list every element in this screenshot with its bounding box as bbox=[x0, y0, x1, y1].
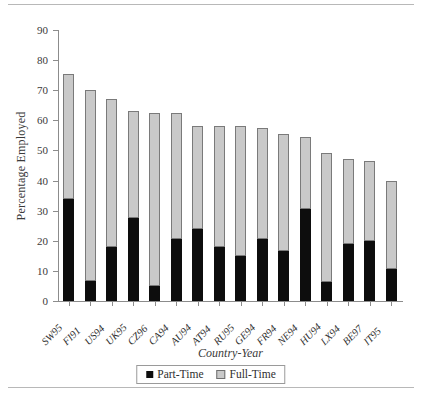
bar-segment-full-time bbox=[214, 126, 225, 246]
y-axis-tick-label: 40 bbox=[0, 175, 48, 186]
bar-segment-full-time bbox=[235, 126, 246, 255]
x-axis-category-labels: SW95FI91US94UK95CZ96CA94AU94AT94RU95GE94… bbox=[58, 304, 403, 348]
y-axis-tick-label: 90 bbox=[0, 25, 48, 36]
bar-FI91[interactable] bbox=[85, 90, 96, 301]
bar-segment-full-time bbox=[106, 99, 117, 247]
y-axis-tick-label: 70 bbox=[0, 85, 48, 96]
bar-US94[interactable] bbox=[106, 99, 117, 301]
bar-segment-part-time bbox=[235, 256, 246, 301]
bar-segment-full-time bbox=[321, 153, 332, 282]
x-axis-label-IT95: IT95 bbox=[362, 325, 384, 347]
legend-label-part-time: Part-Time bbox=[157, 368, 203, 380]
bar-segment-part-time bbox=[278, 251, 289, 301]
x-axis-label-US94: US94 bbox=[82, 323, 106, 347]
y-axis-tick-label: 60 bbox=[0, 115, 48, 126]
x-axis-label-CA94: CA94 bbox=[147, 322, 172, 347]
y-axis-title: Percentage Employed bbox=[14, 41, 29, 291]
bar-segment-full-time bbox=[128, 111, 139, 218]
bar-segment-full-time bbox=[85, 90, 96, 280]
bar-segment-full-time bbox=[257, 128, 268, 239]
x-axis-label-RU95: RU95 bbox=[211, 322, 236, 347]
stacked-bar-chart-figure: Percentage Employed 0102030405060708090 … bbox=[0, 8, 422, 388]
bar-segment-full-time bbox=[300, 137, 311, 209]
x-axis-title: Country-Year bbox=[58, 346, 403, 361]
y-axis-tick-label: 30 bbox=[0, 205, 48, 216]
bar-segment-full-time bbox=[343, 159, 354, 243]
chart-legend: Part-Time Full-Time bbox=[136, 365, 285, 384]
bar-AT94[interactable] bbox=[214, 126, 225, 301]
bar-BE97[interactable] bbox=[364, 161, 375, 301]
bar-segment-part-time bbox=[106, 247, 117, 301]
bar-segment-part-time bbox=[300, 209, 311, 301]
bar-segment-full-time bbox=[149, 113, 160, 286]
y-axis-tick-label: 10 bbox=[0, 265, 48, 276]
legend-item-part-time: Part-Time bbox=[146, 368, 203, 380]
x-axis-label-HU94: HU94 bbox=[297, 321, 323, 347]
y-axis-tick-label: 20 bbox=[0, 235, 48, 246]
top-divider-rule bbox=[8, 4, 414, 5]
bar-segment-part-time bbox=[171, 239, 182, 301]
bar-segment-part-time bbox=[192, 229, 203, 301]
bar-GE94[interactable] bbox=[257, 128, 268, 301]
bar-segment-part-time bbox=[257, 239, 268, 301]
bar-segment-part-time bbox=[63, 199, 74, 301]
x-axis-label-AU94: AU94 bbox=[168, 322, 193, 347]
bar-RU95[interactable] bbox=[235, 126, 246, 301]
bar-LX94[interactable] bbox=[343, 159, 354, 301]
x-axis-label-FR94: FR94 bbox=[254, 323, 278, 347]
x-axis-label-FI91: FI91 bbox=[61, 325, 83, 347]
bar-segment-part-time bbox=[128, 218, 139, 301]
bar-segment-part-time bbox=[364, 241, 375, 301]
bar-segment-full-time bbox=[63, 74, 74, 200]
y-axis-tick-label: 80 bbox=[0, 55, 48, 66]
black-square-icon bbox=[146, 371, 153, 378]
x-axis-label-BE97: BE97 bbox=[340, 323, 364, 347]
x-axis-label-AT94: AT94 bbox=[190, 324, 214, 348]
bar-SW95[interactable] bbox=[63, 74, 74, 301]
legend-label-full-time: Full-Time bbox=[230, 368, 276, 380]
y-axis-title-host: Percentage Employed bbox=[10, 30, 32, 301]
bar-segment-part-time bbox=[85, 281, 96, 301]
x-axis-label-CZ96: CZ96 bbox=[125, 323, 149, 347]
bar-NE94[interactable] bbox=[300, 137, 311, 301]
x-axis-label-UK95: UK95 bbox=[104, 322, 130, 348]
bar-series-group bbox=[58, 30, 402, 301]
bar-segment-part-time bbox=[149, 286, 160, 301]
gray-square-icon bbox=[217, 370, 226, 379]
bar-segment-full-time bbox=[171, 113, 182, 239]
y-axis-tick-label: 50 bbox=[0, 145, 48, 156]
bar-segment-full-time bbox=[278, 134, 289, 251]
bar-segment-full-time bbox=[386, 181, 397, 270]
bar-UK95[interactable] bbox=[128, 111, 139, 301]
x-axis-label-GE94: GE94 bbox=[233, 322, 258, 347]
plot-area bbox=[58, 30, 402, 301]
y-axis-tick-label: 0 bbox=[0, 296, 48, 307]
legend-item-full-time: Full-Time bbox=[217, 368, 276, 380]
bar-CZ96[interactable] bbox=[149, 113, 160, 301]
bar-segment-full-time bbox=[192, 126, 203, 228]
bar-FR94[interactable] bbox=[278, 134, 289, 301]
x-axis-label-SW95: SW95 bbox=[39, 322, 64, 347]
bar-segment-part-time bbox=[343, 244, 354, 301]
bar-segment-part-time bbox=[214, 247, 225, 301]
bar-segment-part-time bbox=[386, 269, 397, 301]
bar-IT95[interactable] bbox=[386, 181, 397, 301]
bar-segment-part-time bbox=[321, 282, 332, 301]
bar-HU94[interactable] bbox=[321, 153, 332, 301]
bar-segment-full-time bbox=[364, 161, 375, 241]
x-axis-label-NE94: NE94 bbox=[276, 322, 301, 347]
bar-CA94[interactable] bbox=[171, 113, 182, 301]
bar-AU94[interactable] bbox=[192, 126, 203, 301]
